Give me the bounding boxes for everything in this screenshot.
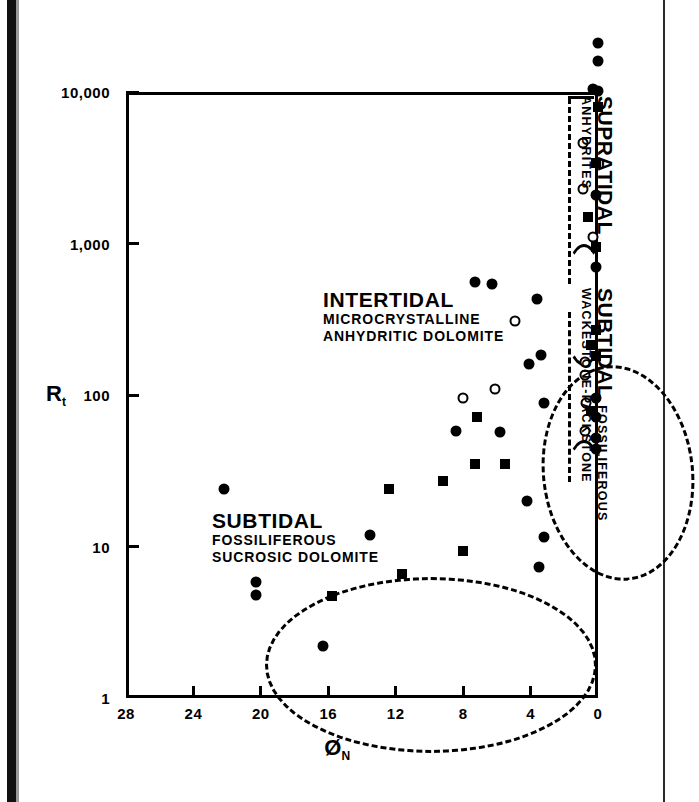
- data-point: [535, 349, 546, 360]
- y-tick-label-100: 100: [83, 387, 110, 404]
- x-axis-title: ØN: [0, 735, 675, 763]
- x-tick-label-28: 28: [117, 705, 135, 722]
- x-tick-label-20: 20: [252, 705, 270, 722]
- x-tick-label-24: 24: [185, 705, 203, 722]
- annotation-subtidal-sucrosic-line2: SUCROSIC DOLOMITE: [212, 549, 379, 567]
- annotation-subtidal-wackestone-title: SUBTIDAL: [593, 288, 617, 398]
- annotation-intertidal-title: INTERTIDAL: [323, 289, 504, 311]
- data-point: [523, 359, 534, 370]
- annotation-intertidal-line1: MICROCRYSTALLINE: [323, 311, 504, 329]
- data-point: [495, 426, 506, 437]
- scan-edge-left-shadow: [16, 0, 19, 802]
- data-point: [593, 85, 604, 96]
- data-point: [250, 589, 261, 600]
- data-point: [591, 242, 601, 252]
- data-point: [532, 294, 543, 305]
- y-tick-10,000: [126, 91, 139, 94]
- x-axis-title-text: Ø: [324, 735, 341, 760]
- data-point: [250, 577, 261, 588]
- data-point: [218, 483, 229, 494]
- y-tick-label-10: 10: [92, 538, 110, 555]
- y-tick-label-1: 1: [101, 690, 110, 707]
- annotation-subtidal-sucrosic-line1: FOSSILIFEROUS: [212, 532, 379, 550]
- annotation-subtidal-wackestone: SUBTIDAL FOSSILIFEROUS WACKESTONE-PACKST…: [579, 288, 617, 521]
- plot-area: 1101001,00010,000 2824201612840: [126, 92, 598, 698]
- data-point: [438, 476, 448, 486]
- data-point: [458, 546, 468, 556]
- x-tick-20: [259, 686, 262, 698]
- data-point: [318, 641, 329, 652]
- annotation-subtidal-wackestone-line2: WACKESTONE-PACKSTONE: [579, 288, 593, 521]
- data-point: [593, 38, 604, 49]
- data-point: [470, 459, 480, 469]
- data-point: [593, 56, 604, 67]
- y-tick-1,000: [126, 242, 139, 245]
- cluster-envelope-subtidal-sucrosic: [265, 577, 597, 753]
- annotation-subtidal-wackestone-line1: FOSSILIFEROUS: [595, 405, 609, 521]
- annotation-intertidal-line2: ANHYDRITIC DOLOMITE: [323, 328, 504, 346]
- scan-edge-left: [7, 0, 16, 802]
- data-point: [458, 393, 469, 404]
- data-point: [327, 591, 337, 601]
- data-point: [500, 459, 510, 469]
- data-point: [384, 484, 394, 494]
- annotation-supratidal: SUPRATIDAL ANHYDRITES: [579, 96, 617, 235]
- data-point: [490, 383, 501, 394]
- data-point: [591, 261, 602, 272]
- x-axis-title-subscript: N: [341, 749, 350, 763]
- y-tick-label-10,000: 10,000: [61, 84, 110, 101]
- data-point: [486, 279, 497, 290]
- data-point: [469, 276, 480, 287]
- y-axis-title: Rt: [46, 381, 66, 409]
- data-point: [472, 412, 482, 422]
- data-point: [522, 495, 533, 506]
- y-tick-10: [126, 545, 139, 548]
- data-point: [397, 569, 407, 579]
- y-tick-label-1,000: 1,000: [70, 235, 110, 252]
- y-axis-title-subscript: t: [62, 395, 66, 409]
- annotation-supratidal-line1: ANHYDRITES: [579, 96, 593, 235]
- annotation-supratidal-title: SUPRATIDAL: [593, 96, 617, 235]
- data-point: [539, 532, 550, 543]
- data-point: [539, 398, 550, 409]
- y-axis-title-text: R: [46, 381, 62, 406]
- x-tick-label-0: 0: [594, 705, 603, 722]
- data-point: [510, 315, 521, 326]
- annotation-intertidal: INTERTIDAL MICROCRYSTALLINE ANHYDRITIC D…: [323, 289, 504, 346]
- annotation-subtidal-sucrosic: SUBTIDAL FOSSILIFEROUS SUCROSIC DOLOMITE: [212, 510, 379, 567]
- data-point: [534, 562, 545, 573]
- y-tick-100: [126, 394, 139, 397]
- annotation-subtidal-sucrosic-title: SUBTIDAL: [212, 510, 379, 532]
- x-tick-24: [192, 686, 195, 698]
- data-point: [451, 425, 462, 436]
